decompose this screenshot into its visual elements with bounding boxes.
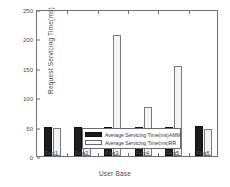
y-tick-label: 150 [23, 67, 33, 73]
x-tick-mark-top [67, 11, 68, 14]
x-tick-mark-top [128, 11, 129, 14]
y-tick-label: 250 [23, 8, 33, 14]
legend-label-amm: Average Servicing Time(ms)AMM [105, 132, 181, 138]
legend-item-rr: Average Servicing Time(ms)RR [85, 139, 178, 147]
chart-legend: Average Servicing Time(ms)AMM Average Se… [82, 128, 181, 149]
legend-label-rr: Average Servicing Time(ms)RR [105, 140, 176, 146]
y-tick-mark [37, 158, 40, 159]
legend-swatch-amm [85, 132, 102, 138]
legend-swatch-rr [85, 140, 102, 146]
x-axis-title: User Base [0, 170, 230, 177]
y-tick-mark [37, 99, 40, 100]
x-axis-label: Fog6 [183, 150, 223, 156]
y-tick-label: 200 [23, 37, 33, 43]
y-tick-label: 50 [26, 126, 33, 132]
x-tick-mark-top [98, 11, 99, 14]
y-tick-mark [37, 11, 40, 12]
y-tick-label: 100 [23, 96, 33, 102]
y-tick-mark [37, 69, 40, 70]
bar-chart-figure: Request Servicing Time(ms) 0501001502002… [0, 0, 230, 187]
y-axis-title: Request Servicing Time(ms) [47, 0, 54, 126]
y-tick-mark [37, 128, 40, 129]
x-tick-mark-top [158, 11, 159, 14]
y-tick-mark [37, 40, 40, 41]
x-tick-mark-top [189, 11, 190, 14]
legend-item-amm: Average Servicing Time(ms)AMM [85, 131, 178, 139]
